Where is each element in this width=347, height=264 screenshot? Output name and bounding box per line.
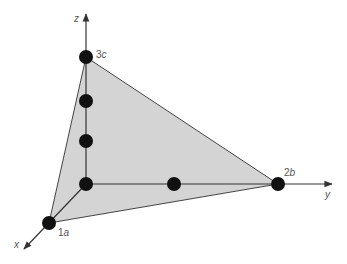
origin-dot xyxy=(79,177,93,191)
x-intercept-label: 1a xyxy=(58,227,70,238)
y-intercept-label: 2b xyxy=(284,167,296,178)
x-intercept-dot xyxy=(42,216,56,230)
y-intercept-dot xyxy=(271,177,285,191)
z-intercept-dot xyxy=(79,50,93,64)
z-point-2 xyxy=(79,94,93,108)
z-point-1 xyxy=(79,134,93,148)
y-axis-label: y xyxy=(324,189,331,200)
x-axis-label: x xyxy=(13,239,20,250)
y-point-1 xyxy=(167,177,181,191)
z-intercept-label: 3c xyxy=(96,49,107,60)
z-axis-label: z xyxy=(73,13,79,24)
plane-diagram: z y x 3c 2b 1a xyxy=(0,0,347,264)
